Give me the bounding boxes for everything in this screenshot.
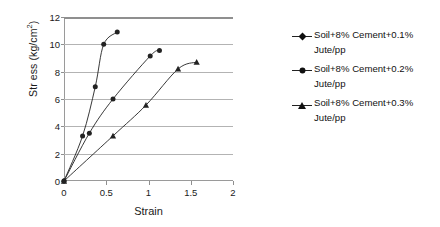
data-point [111,97,116,102]
legend-label-line2: Jute/pp [314,111,440,126]
data-point [87,131,92,136]
y-axis-title-close: ) [27,21,39,25]
legend-key-triangle-icon [292,100,312,110]
legend-label-line2: Jute/pp [314,77,440,92]
x-tick-mark [233,181,234,185]
legend-label-line1: Soil+8% Cement+0.3% [314,97,413,108]
y-tick-label: 8 [55,66,60,77]
data-point [93,84,98,89]
x-tick-label: 1.5 [184,187,197,198]
data-point [80,133,85,138]
legend-label-line1: Soil+8% Cement+0.1% [314,29,413,40]
data-point [194,59,200,65]
x-tick-mark [106,181,107,185]
data-point [101,42,106,47]
chart-legend: Soil+8% Cement+0.1% Jute/pp Soil+8% Ceme… [292,28,440,130]
x-tick-label: 1 [146,187,151,198]
series-line [64,62,197,181]
y-tick-label: 2 [55,148,60,159]
series-1 [62,48,162,184]
data-point [175,66,181,72]
legend-key-circle-icon [292,65,312,75]
x-tick-mark [191,181,192,185]
data-point [115,30,120,35]
chart-figure: Str ess (kg/cm2) 024681012 00.511.52 Str… [0,0,440,227]
y-tick-label: 0 [55,176,60,187]
y-tick-label: 4 [55,121,60,132]
legend-label-line2: Jute/pp [314,43,440,58]
series-0 [62,30,120,184]
legend-item-1[interactable]: Soil+8% Cement+0.2% Jute/pp [292,62,440,91]
x-tick-mark [149,181,150,185]
series-line [64,32,117,181]
x-tick-label: 0 [61,187,66,198]
y-axis-title-superscript: 2 [25,24,34,28]
y-axis-title: Str ess (kg/cm2) [25,0,39,129]
data-point [157,48,162,53]
y-tick-label: 10 [49,39,60,50]
series-line [64,50,159,181]
plot-area: 024681012 00.511.52 [64,17,233,181]
legend-item-2[interactable]: Soil+8% Cement+0.3% Jute/pp [292,96,440,125]
y-tick-label: 12 [49,12,60,23]
data-point [148,53,153,58]
legend-item-0[interactable]: Soil+8% Cement+0.1% Jute/pp [292,28,440,57]
x-tick-label: 0.5 [100,187,113,198]
legend-key-diamond-icon [292,31,312,41]
y-axis-title-text: Str ess (kg/cm [27,28,39,97]
y-tick-label: 6 [55,94,60,105]
x-axis-title: Strain [64,205,233,217]
legend-label-line1: Soil+8% Cement+0.2% [314,63,413,74]
x-tick-label: 2 [230,187,235,198]
data-series-layer [64,17,233,181]
